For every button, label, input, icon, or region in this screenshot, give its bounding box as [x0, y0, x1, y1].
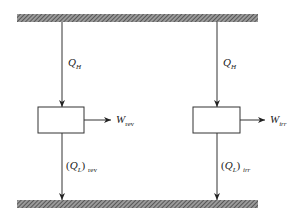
- cold-reservoir: [17, 200, 258, 208]
- heat-in-label-irr: QH: [223, 57, 236, 68]
- work-label-irr: Wirr: [270, 114, 287, 125]
- heat-in-label-rev: QH: [68, 57, 81, 68]
- heat-out-label-irr: (QL) irr: [221, 160, 250, 171]
- engine-box-rev: [38, 107, 84, 133]
- engine-box-irr: [193, 107, 240, 133]
- reversible-engine: [38, 22, 111, 200]
- diagram-canvas: [0, 0, 306, 220]
- heat-out-label-rev: (QL) rev: [66, 160, 97, 171]
- hot-reservoir: [17, 14, 258, 22]
- irreversible-engine: [193, 22, 265, 200]
- work-label-rev: Wrev: [116, 114, 134, 125]
